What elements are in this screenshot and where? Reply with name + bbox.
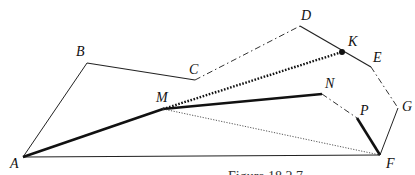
label-M: M [155, 90, 169, 105]
label-B: B [76, 44, 85, 59]
segment-MN [163, 94, 322, 109]
segment-PF [357, 118, 380, 155]
polygon-diagram: A B C D K E G F M N P Figure 18.2.7 [0, 0, 415, 175]
label-E: E [372, 50, 382, 65]
segment-AF [23, 155, 380, 157]
label-C: C [189, 62, 199, 77]
segment-NP [322, 94, 357, 118]
label-D: D [300, 8, 311, 23]
segment-AB [23, 63, 87, 157]
segment-MF [163, 109, 380, 155]
label-P: P [359, 103, 369, 118]
segment-CD [195, 26, 300, 80]
label-G: G [402, 99, 412, 114]
segment-GF [380, 108, 398, 155]
segment-AM [23, 109, 163, 157]
label-F: F [385, 156, 395, 171]
segment-BC [87, 63, 195, 80]
label-K: K [347, 34, 358, 49]
label-N: N [324, 76, 335, 91]
segment-EG [371, 67, 398, 108]
figure-caption: Figure 18.2.7 [228, 169, 303, 175]
point-K-dot [339, 49, 345, 55]
segment-DE [300, 26, 371, 67]
label-A: A [9, 156, 19, 171]
